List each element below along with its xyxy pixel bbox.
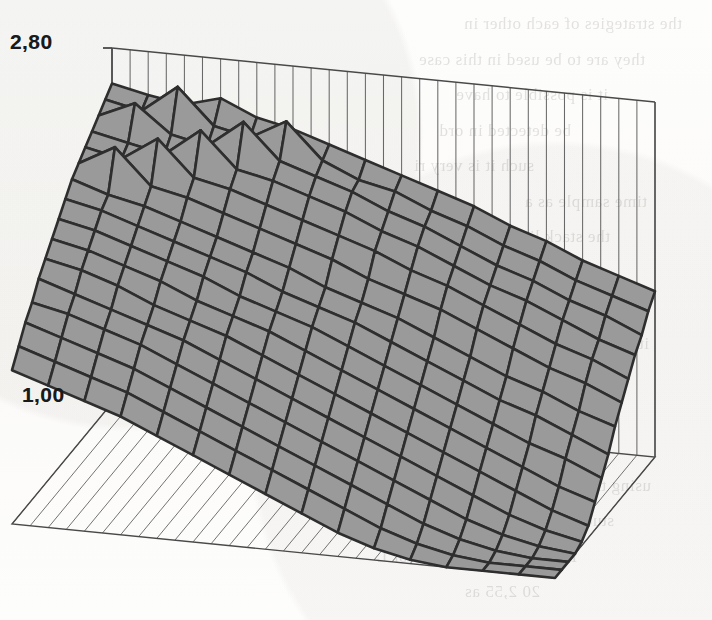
surface-mesh [12, 84, 655, 579]
z-axis-bottom-tick-label: 1,00 [22, 383, 64, 407]
z-axis-top-tick-label: 2,80 [10, 30, 52, 54]
figure-page: the strategies of each other inthey are … [0, 0, 712, 620]
surface-plot-canvas [0, 0, 712, 620]
